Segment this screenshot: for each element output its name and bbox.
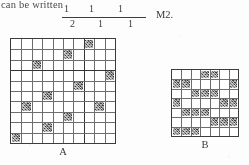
grid-filled-cell bbox=[220, 99, 228, 107]
grid-line-horizontal bbox=[11, 122, 115, 123]
grid-line-horizontal bbox=[11, 49, 115, 50]
figure-a-caption: A bbox=[10, 146, 116, 157]
grid-filled-cell bbox=[201, 90, 209, 98]
grid-filled-cell bbox=[192, 90, 200, 98]
grid-line-horizontal bbox=[172, 117, 238, 118]
grid-filled-cell bbox=[173, 80, 181, 88]
grid-filled-cell bbox=[106, 71, 114, 79]
grid-filled-cell bbox=[201, 71, 209, 79]
problem-label: M2. bbox=[156, 9, 173, 20]
numerator-1: 1 bbox=[64, 3, 69, 14]
grid-filled-cell bbox=[22, 102, 30, 110]
fraction-expression: 1 1 1 2 1 1 bbox=[62, 3, 148, 31]
grid-filled-cell bbox=[211, 90, 219, 98]
numerator-2: 1 bbox=[89, 3, 94, 14]
grid-filled-cell bbox=[173, 99, 181, 107]
grid-line-horizontal bbox=[11, 112, 115, 113]
figure-b: B bbox=[171, 69, 239, 137]
grid-filled-cell bbox=[211, 118, 219, 126]
denominator-2: 1 bbox=[98, 18, 103, 29]
denominator-3: 1 bbox=[128, 18, 133, 29]
figure-b-caption: B bbox=[171, 139, 239, 150]
grid-filled-cell bbox=[182, 80, 190, 88]
grid-filled-cell bbox=[43, 92, 51, 100]
grid-filled-cell bbox=[173, 128, 181, 136]
grid-line-horizontal bbox=[11, 81, 115, 82]
grid-filled-cell bbox=[64, 113, 72, 121]
grid-filled-cell bbox=[192, 109, 200, 117]
numerator-3: 1 bbox=[118, 3, 123, 14]
grid-line-horizontal bbox=[11, 60, 115, 61]
grid-filled-cell bbox=[64, 50, 72, 58]
grid-filled-cell bbox=[201, 109, 209, 117]
grid-a bbox=[10, 38, 116, 144]
grid-filled-cell bbox=[192, 128, 200, 136]
grid-filled-cell bbox=[74, 82, 82, 90]
grid-filled-cell bbox=[182, 128, 190, 136]
grid-filled-cell bbox=[85, 40, 93, 48]
grid-filled-cell bbox=[230, 80, 238, 88]
grid-line-horizontal bbox=[172, 98, 238, 99]
grid-line-horizontal bbox=[11, 133, 115, 134]
running-text: can be written bbox=[1, 0, 63, 10]
grid-filled-cell bbox=[211, 71, 219, 79]
grid-filled-cell bbox=[220, 118, 228, 126]
grid-filled-cell bbox=[12, 134, 20, 142]
grid-filled-cell bbox=[33, 61, 41, 69]
grid-b bbox=[171, 69, 239, 137]
grid-filled-cell bbox=[95, 102, 103, 110]
grid-filled-cell bbox=[230, 118, 238, 126]
grid-filled-cell bbox=[230, 99, 238, 107]
figure-a: A bbox=[10, 38, 116, 144]
grid-filled-cell bbox=[182, 109, 190, 117]
grid-line-horizontal bbox=[11, 70, 115, 71]
scanned-page: can be written 1 1 1 2 1 1 M2. A B bbox=[0, 0, 249, 165]
grid-line-horizontal bbox=[11, 91, 115, 92]
denominator-1: 2 bbox=[70, 18, 75, 29]
grid-filled-cell bbox=[43, 123, 51, 131]
